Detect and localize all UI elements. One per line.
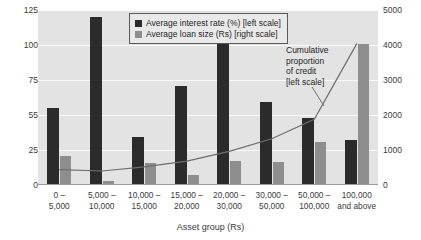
x-axis-label: 100,000and above [336,190,379,212]
annotation-line: of credit [286,66,329,77]
y-axis-left-tick: 125 [24,6,38,15]
y-axis-right-tick: 5000 [383,6,402,15]
x-axis-label-line: 50,000 – [293,190,336,201]
y-axis-left-tick: 100 [24,41,38,50]
x-axis-label-line: 15,000 [123,201,166,212]
x-axis-label-line: 100,000 [293,201,336,212]
y-axis-right-tick: 1000 [383,146,402,155]
y-axis-right-tick: 0 [383,181,388,190]
x-axis-label-line: 30,000 – [251,190,294,201]
cumulative-proportion-annotation: Cumulative proportion of credit [left sc… [286,45,329,87]
x-axis-label: 5,000 –10,000 [81,190,124,212]
x-axis-title: Asset group (Rs) [0,222,421,232]
legend-item-label: Average loan size (Rs) [right scale] [146,29,278,39]
x-axis-label: 20,000 –30,000 [208,190,251,212]
x-axis-label: 50,000 –100,000 [293,190,336,212]
x-axis-label-line: 30,000 [208,201,251,212]
x-axis-label-line: 20,000 – [208,190,251,201]
y-axis-right-tick: 2000 [383,111,402,120]
x-axis-label-line: 15,000 – [166,190,209,201]
y-axis-left-tick: 55 [29,111,38,120]
x-axis-label-line: 100,000 [336,190,379,201]
x-axis-labels: 0 –5,0005,000 –10,00010,000 –15,00015,00… [38,190,378,218]
x-axis-label-line: 5,000 [38,201,81,212]
x-axis-label-line: 50,000 [251,201,294,212]
y-axis-left-tick: 75 [29,76,38,85]
legend-swatch-icon [135,20,142,27]
annotation-line: [left scale] [286,77,329,88]
y-axis-right-tick: 3000 [383,76,402,85]
x-axis-label: 10,000 –15,000 [123,190,166,212]
legend-item-label: Average interest rate (%) [left scale] [146,18,281,28]
chart-container: 125 100 75 55 25 0 5000 4000 3000 2000 1… [0,0,421,240]
x-axis-label-line: 10,000 [81,201,124,212]
y-axis-left-tick: 25 [29,146,38,155]
x-axis-label-line: 0 – [38,190,81,201]
x-axis-label-line: 10,000 – [123,190,166,201]
x-axis-label: 30,000 –50,000 [251,190,294,212]
x-axis-label: 15,000 –20,000 [166,190,209,212]
annotation-line: Cumulative [286,45,329,56]
x-axis-label: 0 –5,000 [38,190,81,212]
y-axis-right-tick: 4000 [383,41,402,50]
annotation-line: proportion [286,56,329,67]
legend: Average interest rate (%) [left scale] A… [129,13,288,44]
legend-item: Average interest rate (%) [left scale] [135,18,281,28]
legend-swatch-icon [135,31,142,38]
x-axis-label-line: 5,000 – [81,190,124,201]
x-axis-label-line: 20,000 [166,201,209,212]
legend-item: Average loan size (Rs) [right scale] [135,29,281,39]
x-axis-label-line: and above [336,201,379,212]
